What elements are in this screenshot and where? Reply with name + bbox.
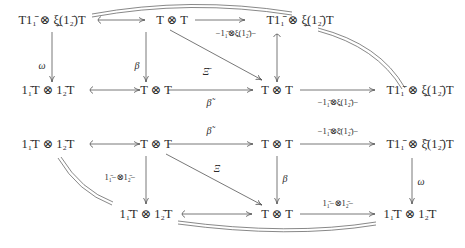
node-r2c3: T ⊗ T — [261, 83, 293, 97]
node-r2c1: 1₁̄T ⊗ 1₂̄T — [22, 83, 75, 97]
node-r1c1: T1₁̄ ⊗ ξ̲(1₂̄)T — [18, 13, 85, 27]
node-r3c4: T1₁̄ ⊗ ξ̄(1₂̄)T — [386, 137, 453, 151]
node-r4c3: T ⊗ T — [261, 207, 293, 221]
label-beta-tilde-1: β̃ — [207, 98, 212, 108]
node-r2c2: T ⊗ T — [140, 83, 172, 97]
node-r3c3: T ⊗ T — [261, 137, 293, 151]
node-r1c3: T1₁̄ ⊗ ξ̲(1₂̄)T — [266, 13, 333, 27]
label-beta-bottom: β — [283, 174, 288, 184]
label-beta-top: β — [135, 61, 140, 71]
label-one-tensor-right: 1₁̄−⊗1₂̄− — [322, 198, 353, 208]
label-top-right-arrow: −1₁̄⊗ξ̲(1₂̄)− — [216, 28, 257, 38]
label-xi: Ξ — [214, 164, 220, 174]
node-r3c1: 1₁̄T ⊗ 1₂̄T — [22, 137, 75, 151]
label-omega-top: ω — [38, 61, 45, 71]
arrow-xi — [166, 154, 262, 205]
commutative-diagram: T1₁̄ ⊗ ξ̲(1₂̄)T T ⊗ T T1₁̄ ⊗ ξ̲(1₂̄)T 1₁… — [0, 0, 465, 248]
label-one-tensor-left: 1₁̄−⊗1₂̄− — [104, 172, 135, 182]
node-r1c2: T ⊗ T — [156, 13, 188, 27]
label-beta-tilde-2: β̃ — [207, 126, 212, 136]
label-mid-right-2: −1₁̄⊗ξ̄(1₂̄)− — [318, 126, 359, 136]
node-r3c2: T ⊗ T — [140, 137, 172, 151]
node-r4c4: 1₁̄T ⊗ 1₂̄T — [384, 207, 437, 221]
right-double-arc — [318, 28, 405, 88]
label-xi-bar: Ξ̄ — [203, 67, 209, 77]
label-mid-right-1: −1₁̄⊗ξ̲(1₂̄)− — [318, 97, 359, 107]
node-r2c4: T1₁̄ ⊗ ξ̲(1₂̄)T — [386, 83, 453, 97]
label-omega-bottom: ω — [417, 177, 424, 187]
node-r4c2: 1₁̄T ⊗ 1₂̄T — [120, 207, 173, 221]
